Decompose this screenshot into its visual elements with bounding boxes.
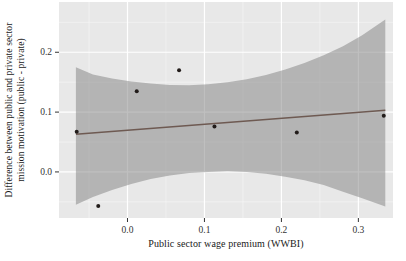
y-tick-label: 0.0 <box>40 167 52 177</box>
x-tick-label: 0.3 <box>352 225 364 235</box>
y-tick-label: 0.1 <box>40 107 52 117</box>
data-point <box>96 204 100 208</box>
y-tick-label: 0.2 <box>40 47 52 57</box>
data-point <box>212 124 216 128</box>
data-point <box>135 89 139 93</box>
x-axis-title: Public sector wage premium (WWBI) <box>59 238 393 249</box>
x-tick-label: 0.2 <box>275 225 287 235</box>
data-point <box>382 114 386 118</box>
scatter-plot-figure: 0.00.10.20.30.00.10.2 Difference between… <box>0 0 406 261</box>
data-point <box>177 68 181 72</box>
x-tick-label: 0.1 <box>199 225 211 235</box>
data-point <box>75 130 79 134</box>
chart-svg: 0.00.10.20.30.00.10.2 <box>0 0 406 261</box>
x-tick-label: 0.0 <box>122 225 134 235</box>
data-point <box>295 130 299 134</box>
y-axis-title-line1: Difference between public and private se… <box>4 23 16 198</box>
y-axis-title-line2: mission motivation (public - private) <box>16 23 28 198</box>
y-axis-title: Difference between public and private se… <box>4 23 27 198</box>
